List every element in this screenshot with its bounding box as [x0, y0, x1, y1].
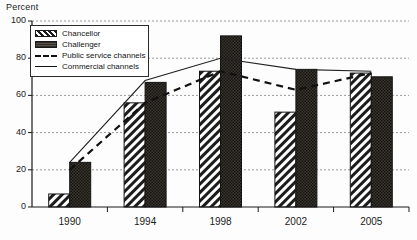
- legend-label-public-service: Public service channels: [62, 51, 146, 60]
- swatch-dashed-line-icon: [35, 52, 57, 59]
- bar-challenger-1990: [70, 162, 91, 207]
- swatch-solid-line-icon: [35, 63, 57, 70]
- y-tick-80: 80: [2, 52, 26, 62]
- swatch-chancellor-icon: [35, 30, 57, 37]
- y-tick-40: 40: [2, 127, 26, 137]
- bar-challenger-2002: [296, 69, 317, 207]
- legend-item-public-service: Public service channels: [35, 50, 148, 61]
- x-tick-1998: 1998: [196, 216, 246, 227]
- y-tick-20: 20: [2, 164, 26, 174]
- chart-legend: Chancellor Challenger Public service cha…: [30, 25, 149, 77]
- x-tick-2002: 2002: [271, 216, 321, 227]
- x-tick-1994: 1994: [120, 216, 170, 227]
- bar-chancellor-1990: [49, 194, 70, 207]
- chart-container: Percent 020406080100 1990199419982002200…: [0, 0, 417, 240]
- legend-label-commercial: Commercial channels: [62, 62, 139, 71]
- x-tick-2005: 2005: [346, 216, 396, 227]
- bar-challenger-1994: [145, 82, 166, 207]
- legend-label-challenger: Challenger: [62, 40, 101, 49]
- bar-chancellor-2005: [350, 73, 371, 207]
- bar-challenger-1998: [221, 36, 242, 207]
- bar-challenger-2005: [371, 77, 392, 207]
- legend-item-challenger: Challenger: [35, 39, 148, 50]
- y-tick-60: 60: [2, 89, 26, 99]
- legend-item-chancellor: Chancellor: [35, 28, 148, 39]
- bar-chancellor-1998: [200, 71, 221, 207]
- legend-label-chancellor: Chancellor: [62, 29, 100, 38]
- legend-item-commercial: Commercial channels: [35, 61, 148, 72]
- y-tick-0: 0: [2, 201, 26, 211]
- x-tick-1990: 1990: [45, 216, 95, 227]
- swatch-challenger-icon: [35, 41, 57, 48]
- bar-chancellor-2002: [275, 112, 296, 207]
- y-tick-100: 100: [2, 15, 26, 25]
